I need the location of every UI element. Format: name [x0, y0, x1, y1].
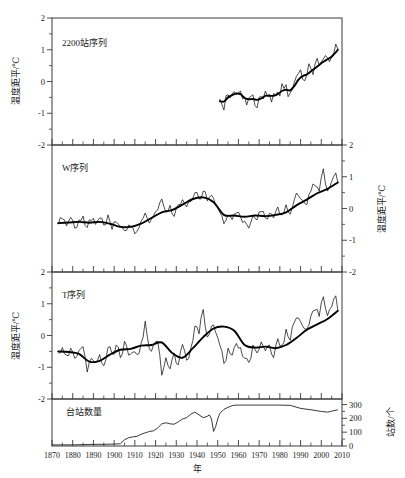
x-tick-label: 1990: [293, 451, 309, 460]
panel-2-smoothed-series: [58, 182, 338, 227]
panel-1-label: 2200站序列: [62, 37, 107, 48]
panel-4-label: 台站数量: [66, 406, 102, 417]
p3-y-tick-label: 1: [41, 299, 45, 309]
x-tick-label: 1970: [251, 451, 267, 460]
x-tick-label: 1890: [85, 451, 101, 460]
panel-1-smoothed-series: [220, 50, 338, 102]
p4-y-tick-label: 200: [349, 413, 362, 423]
panel-4-group: 0100200300 站数/个 台站数量: [52, 399, 396, 451]
p1-y-tick-label: -1: [38, 108, 45, 118]
p4-y-tick-label: 0: [349, 441, 353, 451]
panel-1-group: 210-1-2 温度距平/℃ 2200站序列: [10, 13, 342, 150]
p4-y-tick-label: 300: [349, 400, 362, 410]
p1-y-tick-label: 2: [41, 13, 45, 23]
panel-3-label: T序列: [62, 289, 86, 300]
x-tick-label: 1930: [168, 451, 184, 460]
p3-y-tick-label: 2: [41, 267, 45, 277]
x-tick-label: 1870: [44, 451, 60, 460]
panel-2-label: W序列: [62, 162, 89, 173]
panel-1-annual-series: [220, 44, 338, 110]
p2-y-tick-label: 1: [349, 172, 353, 182]
panel-2-frame: [52, 145, 342, 272]
panel-4-x-ticks: [52, 440, 342, 446]
p3-y-tick-label: -2: [38, 394, 45, 404]
p1-y-tick-label: 1: [41, 45, 45, 55]
p2-y-tick-label: -2: [349, 267, 356, 277]
x-tick-label: 1940: [189, 451, 205, 460]
x-tick-label: 1920: [148, 451, 164, 460]
panel-2-y-axis-title: 温度距平/℃: [376, 185, 387, 234]
panel-3-annual-series: [58, 296, 338, 375]
p2-y-tick-label: -1: [349, 235, 356, 245]
x-tick-label: 2000: [313, 451, 329, 460]
panel-3-group: 210-1-2 温度距平/℃ T序列: [10, 267, 342, 404]
panel-1-y-axis-title: 温度距平/℃: [10, 57, 21, 106]
p1-y-tick-label: -2: [38, 140, 45, 150]
figure-container: 210-1-2 温度距平/℃ 2200站序列 210-1-2 温度距平/℃ W序…: [0, 0, 405, 478]
p1-y-tick-label: 0: [41, 77, 45, 87]
panel-2-annual-series: [58, 169, 338, 234]
multi-panel-time-series-figure: 210-1-2 温度距平/℃ 2200站序列 210-1-2 温度距平/℃ W序…: [0, 0, 405, 478]
x-tick-label: 1960: [230, 451, 246, 460]
p3-y-tick-label: -1: [38, 362, 45, 372]
x-tick-label: 1880: [65, 451, 81, 460]
panel-4-y-axis-right: 0100200300 站数/个: [342, 400, 396, 451]
p4-y-tick-label: 100: [349, 427, 362, 437]
x-tick-label: 1980: [272, 451, 288, 460]
x-axis-tick-labels: 1870188018901900191019201930194019501960…: [44, 451, 350, 460]
panel-2-y-axis-right: 210-1-2 温度距平/℃: [342, 140, 387, 277]
p3-y-tick-label: 0: [41, 331, 45, 341]
panel-3-x-ticks: [52, 393, 342, 399]
x-tick-label: 1900: [106, 451, 122, 460]
panel-1-y-axis-left: 210-1-2 温度距平/℃: [10, 13, 52, 150]
x-tick-label: 1910: [127, 451, 143, 460]
x-axis-title: 年: [193, 463, 202, 474]
panel-2-x-ticks: [52, 266, 342, 272]
x-tick-label: 2010: [334, 451, 350, 460]
x-tick-label: 1950: [210, 451, 226, 460]
p2-y-tick-label: 2: [349, 140, 353, 150]
panel-1-x-ticks: [52, 139, 342, 145]
p2-y-tick-label: 0: [349, 204, 353, 214]
panel-3-y-axis-title: 温度距平/℃: [10, 312, 21, 361]
panel-4-y-axis-title: 站数/个: [385, 407, 396, 437]
panel-2-group: 210-1-2 温度距平/℃ W序列: [52, 140, 387, 277]
panel-3-y-axis-left: 210-1-2 温度距平/℃: [10, 267, 52, 404]
